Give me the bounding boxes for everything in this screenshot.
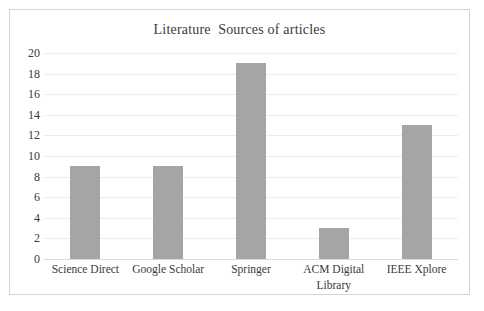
y-axis-tick-label: 8	[10, 171, 40, 183]
x-axis-category-line: ACM Digital	[303, 263, 364, 275]
gridline	[44, 259, 458, 260]
y-axis-tick-label: 6	[10, 191, 40, 203]
y-axis-tick-label: 2	[10, 232, 40, 244]
x-axis-category-line: IEEE Xplore	[387, 263, 447, 275]
y-axis-tick-label: 20	[10, 47, 40, 59]
y-axis-tick-label: 10	[10, 150, 40, 162]
x-axis-category-line: Science Direct	[52, 263, 119, 275]
y-axis-tick-label: 14	[10, 109, 40, 121]
bar[interactable]	[319, 228, 349, 259]
x-axis: Science DirectGoogle ScholarSpringerACM …	[44, 262, 458, 304]
x-axis-category-label: Springer	[210, 262, 293, 278]
bar[interactable]	[236, 63, 266, 259]
x-axis-category-line: Google Scholar	[132, 263, 204, 275]
x-axis-category-label: Google Scholar	[127, 262, 210, 278]
y-axis-tick-label: 18	[10, 68, 40, 80]
x-axis-category-label: Science Direct	[44, 262, 127, 278]
x-axis-category-line: Library	[292, 278, 375, 294]
bars-layer	[44, 53, 458, 259]
bar[interactable]	[153, 166, 183, 259]
chart-frame: Literature Sources of articles 201816141…	[9, 9, 470, 295]
x-axis-category-label: ACM Digital Library	[292, 262, 375, 293]
x-axis-category-label: IEEE Xplore	[375, 262, 458, 278]
chart-title: Literature Sources of articles	[10, 22, 469, 38]
y-axis-tick-label: 16	[10, 88, 40, 100]
bar[interactable]	[402, 125, 432, 259]
y-axis-tick-label: 0	[10, 253, 40, 265]
y-axis-tick-label: 4	[10, 212, 40, 224]
y-axis: 20181614121086420	[10, 53, 40, 259]
x-axis-category-line: Springer	[231, 263, 271, 275]
bar[interactable]	[70, 166, 100, 259]
y-axis-tick-label: 12	[10, 129, 40, 141]
